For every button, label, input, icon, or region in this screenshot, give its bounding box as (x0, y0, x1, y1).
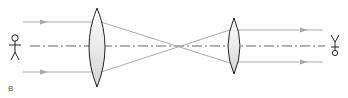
arrow-icons (40, 20, 308, 75)
diagram-canvas (0, 0, 348, 98)
objective-lens (89, 8, 105, 87)
object-stick-figure-icon (9, 35, 21, 60)
figure-label: B (8, 84, 13, 93)
observer-eye-icon (331, 35, 339, 56)
eyepiece-lens (228, 18, 240, 74)
incoming-rays (23, 22, 323, 72)
